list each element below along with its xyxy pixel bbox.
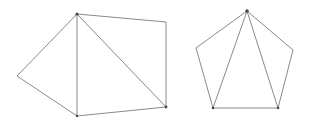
figure-canvas [0,0,311,125]
right-left-lower-vertex-dot [212,107,215,110]
right-apex-vertex-dot [245,9,249,13]
right-apex-to-left-lower-diagonal [213,11,247,108]
left-main-diagonal [77,14,166,107]
left-bottom-left-vertex-dot [76,115,78,117]
right-apex-to-right-lower-diagonal [247,11,278,108]
left-top-left-vertex-dot [75,12,78,15]
right-figure-group [196,9,293,109]
right-pentagon-outline [196,11,293,108]
left-figure-group [17,12,167,117]
left-bottom-right-vertex-dot [165,106,168,109]
right-right-lower-vertex-dot [277,107,280,110]
geometry-figure-svg [0,0,311,125]
